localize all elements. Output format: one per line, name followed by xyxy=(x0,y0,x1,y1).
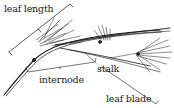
grass-diagram: leaf length internode stalk leaf blade xyxy=(0,0,174,108)
grass-illustration xyxy=(0,0,174,108)
label-stalk: stalk xyxy=(97,64,119,74)
label-leaf-blade: leaf blade xyxy=(106,94,151,104)
label-leaf-length: leaf length xyxy=(4,4,53,14)
label-internode: internode xyxy=(39,75,84,85)
internode-bracket xyxy=(26,58,96,72)
